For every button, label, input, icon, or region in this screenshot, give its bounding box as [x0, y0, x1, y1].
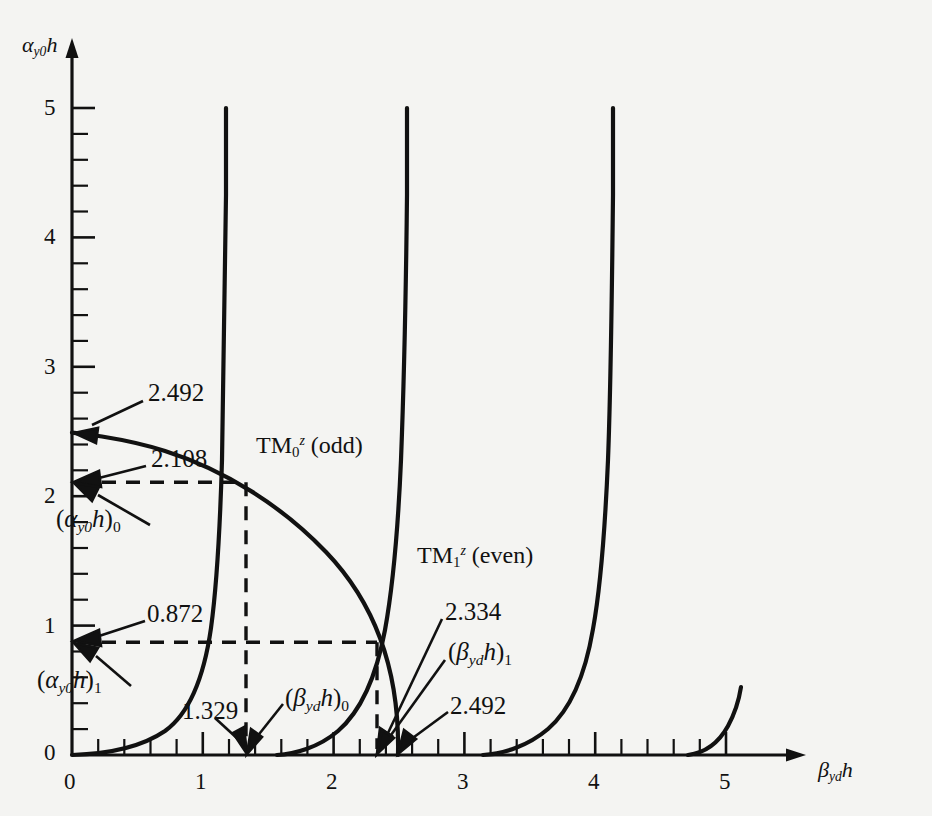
annotation-circle-right-value: 2.492: [450, 692, 506, 720]
arrowhead-alpha0-symbol: [74, 483, 99, 501]
annotation-beta0-symbol: (βydh)0: [285, 684, 349, 715]
mode-label-tm0-odd: TM0z (odd): [256, 432, 363, 461]
x-axis-label-sub: yd: [829, 769, 842, 784]
x-axis-label-h: h: [842, 757, 853, 782]
y-axis-label-alpha: α: [22, 32, 34, 57]
y-tick-label-2: 2: [44, 483, 56, 509]
x-tick-label-3: 3: [457, 769, 469, 795]
annotation-beta1-value: 2.334: [445, 598, 501, 626]
cot-branch-2: [688, 687, 741, 755]
mode0-parity: (odd): [311, 432, 363, 458]
leader-beta0-symbol: [256, 704, 283, 738]
leader-alpha1-value: [96, 621, 145, 637]
arrowhead-beta0-value: [233, 727, 247, 754]
y-axis-label-sub: y0: [34, 44, 47, 59]
x-tick-label-0: 0: [64, 769, 76, 795]
chart-page: αy0h βydh 5 4 3 2 1 0 0 1 2 3 4 5 2.492 …: [0, 0, 932, 816]
mode1-parity: (even): [472, 542, 533, 568]
annotation-alpha0-symbol: (αy0h)0: [56, 505, 121, 536]
x-axis-label-beta: β: [818, 757, 829, 782]
x-axis-label: βydh: [818, 757, 853, 785]
annotation-alpha1-value: 0.872: [147, 600, 203, 628]
x-tick-label-4: 4: [588, 769, 600, 795]
mode0-sup: z: [299, 433, 304, 448]
y-tick-label-0: 0: [44, 740, 56, 766]
annotation-beta1-symbol: (βydh)1: [448, 638, 512, 669]
x-tick-label-5: 5: [719, 769, 731, 795]
arrowhead-circle-top: [74, 428, 98, 443]
mode1-name: TM: [417, 542, 453, 568]
y-tick-label-4: 4: [44, 224, 56, 250]
annotation-alpha1-symbol: (αy0h)1: [37, 666, 102, 697]
mode1-sup: z: [460, 543, 465, 558]
y-tick-label-3: 3: [44, 354, 56, 380]
y-tick-label-5: 5: [44, 95, 56, 121]
annotation-circle-top-value: 2.492: [148, 379, 204, 407]
curves-group: [72, 108, 741, 755]
leader-alpha0-value: [95, 466, 146, 479]
leader-circle-right: [410, 712, 448, 740]
leader-circle-top: [92, 401, 143, 425]
y-axis-label: αy0h: [22, 32, 57, 60]
x-tick-label-1: 1: [195, 769, 207, 795]
mode0-name: TM: [256, 432, 292, 458]
y-axis-arrowhead: [66, 38, 79, 58]
arrowhead-circle-right: [398, 730, 416, 754]
y-axis-label-h: h: [46, 32, 57, 57]
x-axis-arrowhead: [786, 749, 806, 762]
mode-label-tm1-even: TM1z (even): [417, 542, 533, 571]
y-tick-label-1: 1: [44, 613, 56, 639]
x-tick-label-2: 2: [326, 769, 338, 795]
annotation-beta0-value: 1.329: [182, 697, 238, 725]
annotation-alpha0-value: 2.108: [151, 445, 207, 473]
